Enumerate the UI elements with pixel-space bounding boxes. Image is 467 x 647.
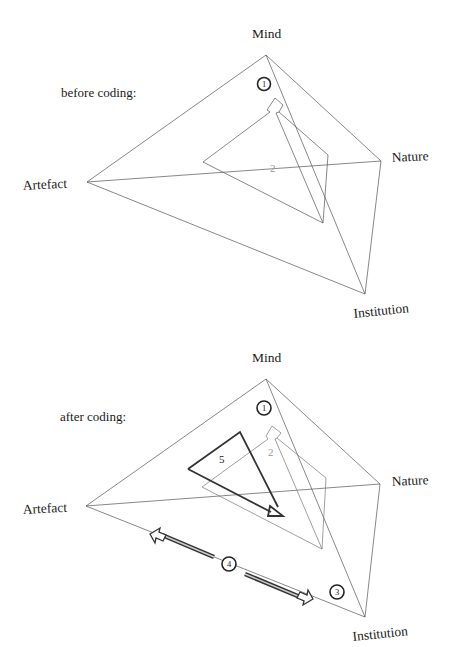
edge-mind-nature (266, 55, 381, 161)
edge-nature-institution (365, 484, 380, 617)
marker-circle-1: 1 (257, 401, 271, 415)
arrow-head-left (150, 528, 166, 543)
edge-mind-artefact (86, 379, 266, 506)
bold-arrow-5-edge (188, 432, 278, 507)
caption-before-coding: before coding: (61, 85, 136, 100)
marker-circle-4: 4 (222, 557, 236, 571)
edge-nature-institution (365, 161, 381, 294)
top-diagram: before coding: Mind Nature Artefact Inst… (22, 26, 428, 321)
bold-arrow-5-base (188, 469, 271, 512)
vertex-label-nature: Nature (391, 148, 428, 165)
inner-arrow-base (202, 487, 322, 549)
edge-mind-institution (266, 55, 365, 294)
label-2: 2 (270, 162, 276, 174)
inner-arrow-outline (202, 426, 326, 549)
tetrahedron-figure: before coding: Mind Nature Artefact Inst… (0, 0, 467, 647)
edge-mind-artefact (87, 55, 266, 182)
edge-artefact-nature (87, 161, 381, 182)
label-2: 2 (268, 446, 274, 458)
svg-text:1: 1 (262, 403, 266, 413)
vertex-label-mind: Mind (252, 26, 282, 41)
tetrahedron-edges (86, 379, 380, 617)
vertex-label-artefact: Artefact (22, 176, 67, 193)
marker-circle-3: 3 (330, 585, 344, 599)
vertex-label-artefact: Artefact (22, 500, 67, 517)
vertex-label-nature: Nature (391, 472, 428, 489)
marker-circle-1: 1 (258, 78, 271, 91)
bottom-diagram: after coding: Mind Nature Artefact Insti… (22, 350, 428, 644)
vertex-label-institution: Institution (352, 623, 409, 644)
svg-text:1: 1 (262, 79, 266, 89)
inner-arrow-outline (203, 98, 328, 223)
arrow-head-right (297, 590, 313, 605)
caption-after-coding: after coding: (60, 409, 126, 424)
svg-text:3: 3 (335, 587, 339, 597)
edge-artefact-institution (87, 182, 365, 294)
vertex-label-institution: Institution (353, 300, 410, 321)
edge-mind-institution (266, 379, 365, 617)
vertex-label-mind: Mind (252, 350, 282, 365)
edge-mind-nature (266, 379, 380, 484)
inner-arrow-base (203, 162, 323, 223)
label-5: 5 (219, 453, 225, 465)
